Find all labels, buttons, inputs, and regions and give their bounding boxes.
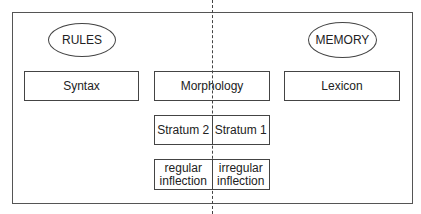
irregular-label: irregular [219, 161, 263, 175]
syntax-box: Syntax [24, 71, 139, 101]
memory-label: MEMORY [316, 33, 370, 47]
irregular-inflection-label: inflection [217, 174, 264, 188]
rules-ellipse: RULES [48, 23, 116, 57]
regular-inflection-label: inflection [160, 174, 207, 188]
stratum-2-cell: Stratum 2 [155, 116, 212, 144]
stratum-2-label: Stratum 2 [157, 124, 209, 137]
lexicon-box: Lexicon [284, 71, 400, 101]
dashed-divider-line [212, 0, 213, 214]
rules-label: RULES [62, 33, 102, 47]
regular-label: regular [165, 161, 202, 175]
irregular-inflection-cell: irregular inflection [212, 160, 270, 189]
memory-ellipse: MEMORY [308, 22, 377, 58]
regular-inflection-cell: regular inflection [155, 160, 212, 189]
stratum-1-label: Stratum 1 [215, 124, 267, 137]
lexicon-label: Lexicon [321, 79, 362, 93]
stratum-1-cell: Stratum 1 [212, 116, 270, 144]
syntax-label: Syntax [63, 79, 100, 93]
